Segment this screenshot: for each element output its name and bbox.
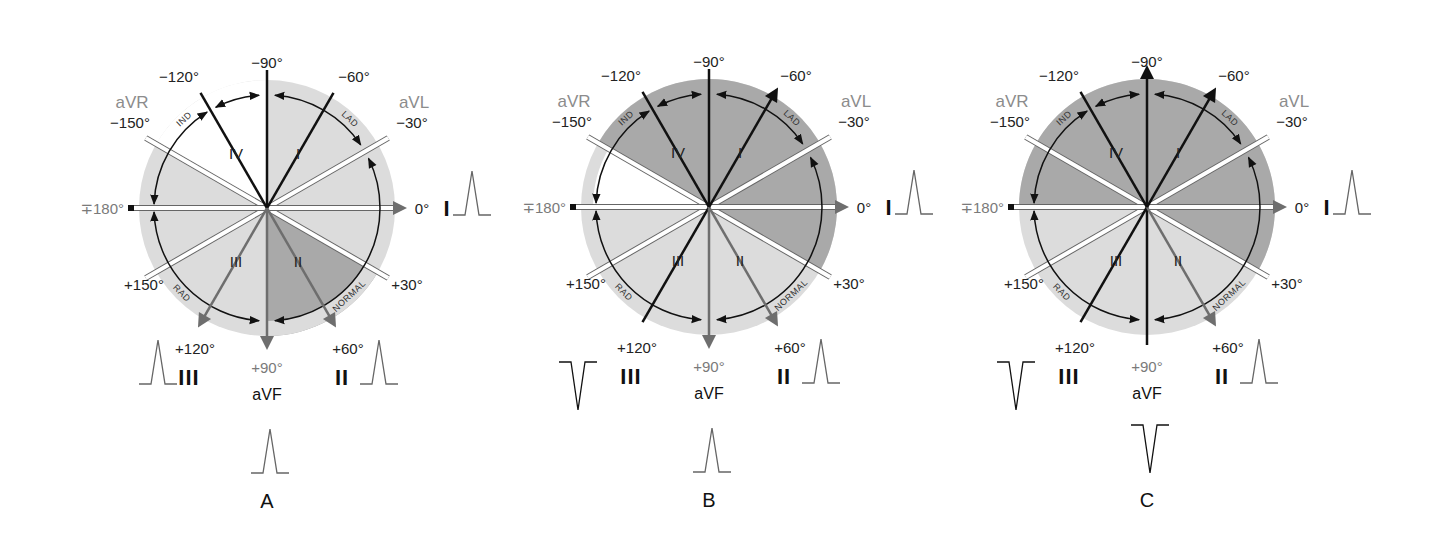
label-minus-90: −90° — [1131, 53, 1162, 70]
quadrant-ii-label: II — [294, 253, 302, 270]
lead-label-avl: aVL — [399, 93, 429, 112]
waveform-lead-i — [895, 170, 933, 214]
waveform-lead-ii — [1240, 339, 1278, 383]
label-plus-60: +60° — [774, 339, 805, 356]
label-plus-30: +30° — [833, 275, 864, 292]
label-minus-90: −90° — [693, 53, 724, 70]
quadrant-iv-label: IV — [229, 145, 243, 162]
panel-label-b: B — [702, 489, 715, 511]
label-plus-90: +90° — [693, 358, 724, 375]
quadrant-ii-label: II — [736, 252, 744, 269]
lead-label-ii: II — [777, 364, 791, 389]
waveform-lead-iii — [139, 340, 177, 384]
label-minus-30: −30° — [838, 113, 869, 130]
lead-arrow-90-arrowhead — [702, 335, 716, 349]
lead-i-arrowhead — [835, 200, 849, 214]
quadrant-i-label: I — [296, 145, 300, 162]
quadrant-i-label: I — [738, 144, 742, 161]
quadrant-iii-label: III — [672, 252, 685, 269]
lead-arrow-90-arrowhead — [260, 336, 274, 350]
lead-label-avf: aVF — [694, 385, 724, 402]
waveform-lead-iii — [559, 362, 597, 410]
waveform-avf — [1131, 425, 1169, 473]
lead-label-avr: aVR — [115, 93, 148, 112]
panel-b: IIIIIIIVINDLADRADNORMAL−90°−120°−60°−150… — [522, 53, 933, 511]
lead-i-arrowhead — [393, 201, 407, 215]
label-minus-120: −120° — [601, 67, 641, 84]
lead-label-avr: aVR — [557, 92, 590, 111]
lead-label-avl: aVL — [841, 92, 871, 111]
label-plus-150: +150° — [566, 275, 606, 292]
waveform-lead-iii — [997, 362, 1035, 410]
label-minus-60: −60° — [338, 68, 369, 85]
label-0: 0° — [1295, 199, 1309, 216]
label-minus-150: −150° — [990, 113, 1030, 130]
label-minus-150: −150° — [552, 113, 592, 130]
lead-label-ii: II — [335, 365, 349, 390]
label-minus-120: −120° — [159, 68, 199, 85]
quadrant-i-label: I — [1176, 144, 1180, 161]
lead-label-iii: III — [178, 365, 199, 390]
label-plus-90: +90° — [1131, 358, 1162, 375]
label-180: ∓180° — [522, 199, 566, 216]
lead-label-avf: aVF — [1132, 385, 1162, 402]
label-plus-60: +60° — [1212, 339, 1243, 356]
label-minus-120: −120° — [1039, 67, 1079, 84]
quadrant-ii-label: II — [1174, 252, 1182, 269]
waveform-lead-i — [1333, 170, 1371, 214]
quadrant-iii-label: III — [230, 253, 243, 270]
lead-label-i: I — [885, 195, 892, 220]
hexaxial-figure: IIIIIIIVINDLADRADNORMAL−90°−120°−60°−150… — [0, 0, 1429, 548]
panel-a: IIIIIIIVINDLADRADNORMAL−90°−120°−60°−150… — [80, 54, 491, 512]
minus-180-marker — [570, 204, 576, 210]
waveform-lead-ii — [802, 339, 840, 383]
label-minus-60: −60° — [780, 67, 811, 84]
label-plus-90: +90° — [251, 359, 282, 376]
panel-label-a: A — [260, 490, 274, 512]
label-plus-150: +150° — [124, 276, 164, 293]
label-plus-120: +120° — [617, 339, 657, 356]
lead-i-arrowhead — [1273, 200, 1287, 214]
lead-label-avf: aVF — [252, 386, 282, 403]
label-minus-150: −150° — [110, 114, 150, 131]
waveform-lead-ii — [360, 340, 398, 384]
lead-label-i: I — [443, 196, 450, 221]
label-minus-60: −60° — [1218, 67, 1249, 84]
waveform-avf — [251, 429, 289, 473]
label-plus-30: +30° — [391, 276, 422, 293]
minus-180-marker — [1008, 204, 1014, 210]
lead-label-avr: aVR — [995, 92, 1028, 111]
lead-label-iii: III — [1058, 364, 1079, 389]
panel-label-c: C — [1140, 489, 1154, 511]
waveform-lead-i — [453, 171, 491, 215]
waveform-avf — [693, 428, 731, 472]
label-180: ∓180° — [960, 199, 1004, 216]
lead-label-ii: II — [1215, 364, 1229, 389]
label-plus-120: +120° — [175, 340, 215, 357]
label-0: 0° — [857, 199, 871, 216]
label-180: ∓180° — [80, 200, 124, 217]
label-minus-90: −90° — [251, 54, 282, 71]
label-plus-120: +120° — [1055, 339, 1095, 356]
label-plus-150: +150° — [1004, 275, 1044, 292]
minus-180-marker — [128, 205, 134, 211]
lead-label-i: I — [1323, 195, 1330, 220]
lead-label-avl: aVL — [1279, 92, 1309, 111]
quadrant-iv-label: IV — [1109, 144, 1123, 161]
label-plus-30: +30° — [1271, 275, 1302, 292]
quadrant-iii-label: III — [1110, 252, 1123, 269]
lead-label-iii: III — [620, 364, 641, 389]
quadrant-iv-label: IV — [671, 144, 685, 161]
hexaxial-diagram-canvas: IIIIIIIVINDLADRADNORMAL−90°−120°−60°−150… — [0, 0, 1429, 548]
label-minus-30: −30° — [396, 114, 427, 131]
label-minus-30: −30° — [1276, 113, 1307, 130]
panel-c: IIIIIIIVINDLADRADNORMAL−90°−120°−60°−150… — [960, 53, 1371, 511]
label-plus-60: +60° — [332, 340, 363, 357]
label-0: 0° — [415, 200, 429, 217]
